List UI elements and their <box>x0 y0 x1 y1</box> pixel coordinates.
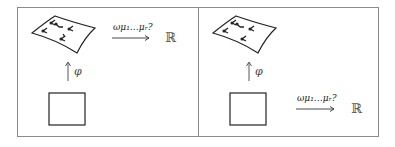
reals-label: ℝ <box>351 101 362 116</box>
reals-label: ℝ <box>165 30 176 45</box>
manifold-icon <box>17 7 198 137</box>
pullback-label: φ <box>74 65 82 78</box>
panel-right: ωμ₁…μᵣ? φ ℝ <box>198 7 379 137</box>
pullback-label: φ <box>255 65 263 78</box>
map-label: ωμ₁…μᵣ? <box>297 93 337 103</box>
map-label: ωμ₁…μᵣ? <box>113 22 153 32</box>
manifold-icon <box>198 7 379 137</box>
panel-left: ωμ₁…μᵣ? φ ℝ <box>17 7 198 137</box>
